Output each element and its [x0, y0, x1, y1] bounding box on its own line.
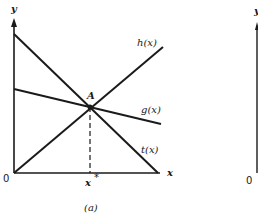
- x-star-label: x: [84, 177, 92, 188]
- intersection-label: A: [86, 90, 95, 101]
- curve-h-label: h(x): [137, 37, 157, 48]
- origin-label: 0: [3, 173, 9, 184]
- curve-t: [14, 34, 158, 173]
- diagram-panel-a: y x 0 t(x) g(x) h(x) A x * (a) y 0: [0, 0, 258, 217]
- curve-t-label: t(x): [141, 144, 159, 155]
- curve-g-label: g(x): [141, 104, 161, 115]
- x-star-superscript: *: [94, 172, 99, 183]
- x-axis-label: x: [166, 167, 174, 178]
- diagram-panel-b-partial: y 0: [246, 5, 258, 186]
- y-axis-arrow: [11, 18, 17, 27]
- panel-b-origin-label: 0: [246, 175, 252, 186]
- panel-b-y-label: y: [253, 5, 258, 16]
- panel-b-y-axis-arrow: [255, 22, 258, 30]
- y-axis-label: y: [10, 3, 18, 14]
- figure-caption: (a): [84, 202, 98, 213]
